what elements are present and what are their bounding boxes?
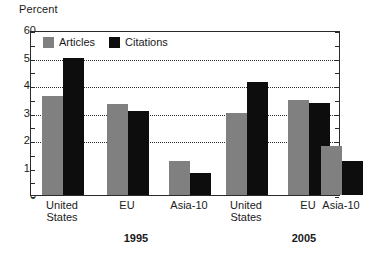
category-label: Asia-10 [311, 199, 367, 211]
legend-label-articles: Articles [59, 37, 95, 48]
group-label: 1995 [106, 232, 166, 244]
legend-entry-citations: Citations [109, 37, 168, 48]
tick-mark-right [335, 87, 339, 88]
chart-legend: Articles Citations [43, 37, 168, 48]
tick-mark-left [31, 128, 35, 129]
tick-mark-left [31, 197, 35, 198]
tick-mark-left [31, 60, 35, 61]
tick-mark-right [335, 32, 339, 33]
bar-citations [128, 111, 149, 195]
category-label: Asia-10 [159, 199, 219, 211]
tick-mark-right [335, 73, 339, 74]
bar-articles [42, 96, 63, 195]
bar-citations [63, 58, 84, 196]
tick-mark-left [31, 87, 35, 88]
category-label: EU [97, 199, 157, 211]
tick-mark-right [335, 197, 339, 198]
bar-citations [247, 82, 268, 195]
tick-mark-right [335, 60, 339, 61]
bar-articles [226, 113, 247, 196]
tick-mark-right [335, 128, 339, 129]
y-axis-unit-label: Percent [19, 3, 58, 16]
legend-swatch-citations [109, 37, 120, 48]
bar-articles [321, 146, 342, 196]
category-label: United States [216, 199, 276, 223]
tick-mark-right [335, 101, 339, 102]
bar-citations [190, 173, 211, 195]
bar-citations [342, 161, 363, 195]
tick-mark-left [31, 101, 35, 102]
bar-articles [169, 161, 190, 195]
tick-mark-left [31, 142, 35, 143]
legend-label-citations: Citations [125, 37, 168, 48]
tick-mark-right [335, 46, 339, 47]
tick-mark-left [31, 183, 35, 184]
tick-mark-left [31, 73, 35, 74]
legend-swatch-articles [43, 37, 54, 48]
tick-mark-left [31, 46, 35, 47]
tick-mark-left [31, 32, 35, 33]
tick-mark-left [31, 156, 35, 157]
bar-articles [288, 100, 309, 195]
group-label: 2005 [274, 232, 334, 244]
bar-articles [107, 104, 128, 195]
plot-area: Articles Citations [30, 31, 340, 196]
tick-mark-right [335, 115, 339, 116]
tick-mark-right [335, 142, 339, 143]
tick-mark-left [31, 115, 35, 116]
category-label: United States [32, 199, 92, 223]
tick-mark-left [31, 170, 35, 171]
legend-entry-articles: Articles [43, 37, 95, 48]
